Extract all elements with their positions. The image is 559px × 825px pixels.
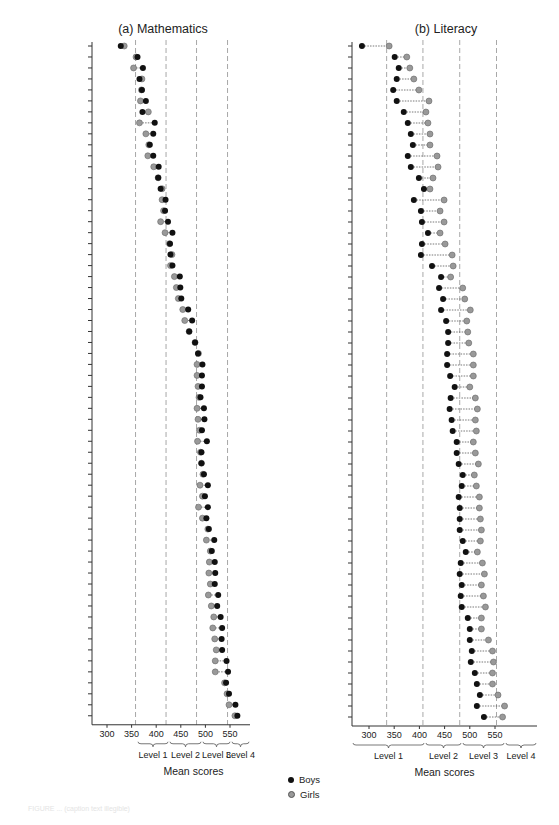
boys-point [447,406,453,412]
girls-point [470,373,476,379]
boys-point [474,703,480,709]
boys-point [448,395,454,401]
girls-point [427,142,433,148]
boys-point [456,494,462,500]
boys-point [460,472,466,478]
girls-point [476,505,482,511]
girls-point [430,175,436,181]
boys-point [456,461,462,467]
girls-point [404,54,410,60]
girls-point [425,120,431,126]
plot-area [0,0,559,825]
boys-point [436,285,442,291]
legend-item-boys: Boys [288,772,320,787]
girls-point [435,164,441,170]
girls-point [478,626,484,632]
girls-point [407,65,413,71]
girls-point [448,274,454,280]
girls-point [481,571,487,577]
girls-point [489,648,495,654]
boys-point [408,164,414,170]
girls-point [441,197,447,203]
girls-point [470,439,476,445]
girls-point [423,109,429,115]
girls-point [472,417,478,423]
boys-point [457,505,463,511]
boys-point [419,241,425,247]
boys-point [394,76,400,82]
girls-point [474,549,480,555]
girls-point [502,703,508,709]
level-brace [426,743,461,748]
legend-label-boys: Boys [299,774,320,785]
girls-point [482,604,488,610]
girls-point [464,318,470,324]
girls-point [500,714,506,720]
girls-marker-icon [288,791,295,798]
girls-point [478,615,484,621]
girls-point [467,307,473,313]
girls-point [477,516,483,522]
boys-point [465,615,471,621]
boys-point [468,659,474,665]
girls-point [465,329,471,335]
girls-point [411,76,417,82]
girls-point [441,219,447,225]
boys-point [401,109,407,115]
boys-point [450,428,456,434]
legend-item-girls: Girls [288,787,320,802]
girls-point [479,560,485,566]
girls-point [495,692,501,698]
girls-point [460,285,466,291]
boys-marker-icon [288,777,294,783]
girls-point [426,98,432,104]
boys-point [418,208,424,214]
boys-point [444,362,450,368]
girls-point [489,670,495,676]
boys-point [458,593,464,599]
girls-point [471,472,477,478]
boys-point [396,65,402,71]
level-brace [463,743,504,748]
boys-point [410,142,416,148]
boys-point [454,439,460,445]
boys-point [429,263,435,269]
boys-point [438,274,444,280]
boys-point [459,604,465,610]
boys-point [359,43,365,49]
girls-point [427,186,433,192]
girls-point [477,538,483,544]
level-brace [506,743,536,748]
girls-point [480,593,486,599]
girls-point [489,681,495,687]
legend: Boys Girls [288,772,320,802]
boys-point [467,637,473,643]
boys-point [463,549,469,555]
boys-point [421,186,427,192]
boys-point [425,230,431,236]
girls-point [386,43,392,49]
boys-point [477,692,483,698]
boys-point [460,538,466,544]
boys-point [449,417,455,423]
girls-point [473,428,479,434]
boys-point [445,340,451,346]
boys-point [392,54,398,60]
girls-point [437,230,443,236]
boys-point [459,483,465,489]
boys-point [458,560,464,566]
girls-point [462,296,468,302]
boys-point [467,626,473,632]
girls-point [437,208,443,214]
boys-point [447,373,453,379]
girls-point [466,340,472,346]
boys-point [416,175,422,181]
boys-point [469,648,475,654]
girls-point [416,87,422,93]
boys-point [481,714,487,720]
boys-point [459,582,465,588]
boys-point [472,670,478,676]
figure-caption: FIGURE ... (caption text illegible) [28,805,130,812]
girls-point [427,131,433,137]
level-brace [353,743,424,748]
